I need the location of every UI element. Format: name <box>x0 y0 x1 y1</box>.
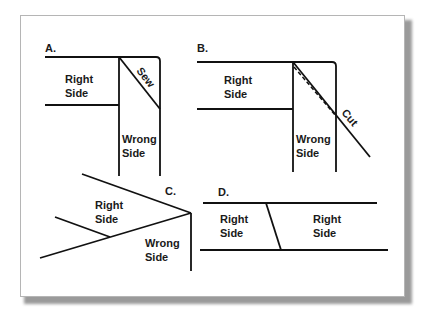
panel-b: B. Right Side Wrong Side Cut <box>197 42 370 172</box>
panel-a-right-side-label: Right <box>65 73 93 85</box>
panel-a-sew-label: Sew <box>134 65 157 90</box>
panel-b-cut-label: Cut <box>339 107 360 129</box>
panel-d-label: D. <box>218 186 229 198</box>
panel-d-right-right-side-label: Right <box>313 213 341 225</box>
panel-b-wrong-side-label: Wrong <box>296 133 331 145</box>
panel-d: D. Right Side Right Side <box>200 186 388 250</box>
panel-b-wrong-side-label-2: Side <box>296 147 319 159</box>
binding-join-diagram: A. Right Side Wrong Side Sew B. Right Si… <box>0 0 423 315</box>
panel-c-right-side-label: Right <box>95 199 123 211</box>
panel-b-seam-line <box>294 67 336 116</box>
panel-a-label: A. <box>45 42 56 54</box>
panel-c: C. Right Side Wrong Side <box>40 174 191 271</box>
panel-d-left-right-side-label: Right <box>220 213 248 225</box>
panel-b-label: B. <box>197 42 208 54</box>
panel-c-label: C. <box>165 185 176 197</box>
panel-a-wrong-side-label-2: Side <box>122 147 145 159</box>
panel-a: A. Right Side Wrong Side Sew <box>45 42 160 176</box>
panel-a-wrong-side-label: Wrong <box>122 133 157 145</box>
panel-c-right-side-label-2: Side <box>95 213 118 225</box>
panel-a-right-side-label-2: Side <box>65 87 88 99</box>
panel-b-right-side-label: Right <box>224 74 252 86</box>
panel-d-diagonal-seam <box>266 203 281 250</box>
panel-c-wrong-side-label-2: Side <box>145 251 168 263</box>
panel-d-left-right-side-label-2: Side <box>220 227 243 239</box>
panel-b-right-side-label-2: Side <box>224 88 247 100</box>
panel-c-wrong-side-label: Wrong <box>145 237 180 249</box>
panel-d-right-right-side-label-2: Side <box>313 227 336 239</box>
